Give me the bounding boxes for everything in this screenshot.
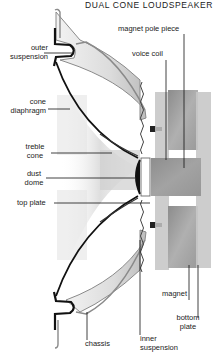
label-line: dome [20, 179, 48, 188]
label-dust-dome: dust dome [20, 170, 48, 187]
label-outer-suspension: outer suspension [4, 44, 48, 61]
label-top-plate: top plate [17, 199, 46, 208]
label-line: suspension [4, 53, 48, 62]
label-line: cone [20, 152, 50, 161]
label-line: plate [172, 323, 204, 332]
magnet [168, 90, 198, 150]
label-treble-cone: treble cone [20, 143, 50, 160]
label-magnet: magnet [162, 290, 187, 299]
label-cone-diaphragm: cone diaphragm [2, 98, 46, 115]
label-bottom-plate: bottom plate [172, 314, 204, 331]
label-line: diaphragm [2, 107, 46, 116]
label-line: suspension [140, 344, 178, 353]
cone-shading [57, 80, 140, 280]
label-chassis: chassis [85, 340, 110, 349]
voice-coil-former [141, 158, 150, 196]
label-voice-coil: voice coil [132, 50, 163, 59]
label-inner-suspension: inner suspension [140, 335, 178, 352]
label-magnet-pole-piece: magnet pole piece [118, 25, 179, 34]
